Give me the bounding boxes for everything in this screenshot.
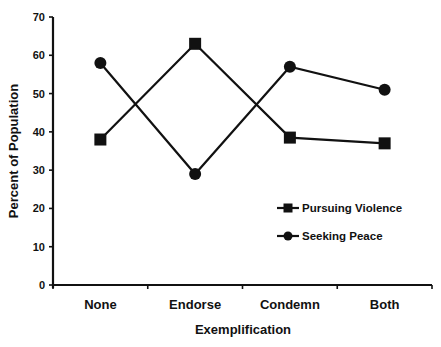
legend: Pursuing ViolenceSeeking Peace [277, 202, 402, 242]
y-axis-title: Percent of Population [6, 84, 21, 218]
x-category-label: None [84, 297, 117, 312]
x-axis-title: Exemplification [195, 322, 291, 337]
square-icon [284, 204, 293, 213]
series-layer [94, 38, 390, 180]
y-tick-label: 30 [33, 164, 45, 176]
y-tick-label: 10 [33, 241, 45, 253]
series-line [100, 44, 384, 144]
square-marker [94, 134, 106, 146]
legend-item: Pursuing Violence [277, 202, 402, 214]
square-marker [189, 38, 201, 50]
y-axis: 010203040506070 [33, 11, 53, 291]
y-tick-label: 40 [33, 126, 45, 138]
legend-item: Seeking Peace [277, 230, 383, 242]
y-tick-label: 50 [33, 88, 45, 100]
square-marker [284, 132, 296, 144]
y-tick-label: 70 [33, 11, 45, 23]
series-pursuing-violence [94, 38, 390, 150]
series-seeking-peace [94, 57, 390, 180]
legend-label: Seeking Peace [302, 230, 383, 242]
line-chart: 010203040506070 NoneEndorseCondemnBoth P… [0, 0, 441, 347]
y-tick-label: 0 [39, 279, 45, 291]
circle-icon [284, 232, 293, 241]
legend-label: Pursuing Violence [302, 202, 402, 214]
circle-marker [189, 168, 201, 180]
x-category-label: Both [370, 297, 400, 312]
circle-marker [284, 61, 296, 73]
series-line [100, 63, 384, 174]
y-tick-label: 20 [33, 202, 45, 214]
square-marker [379, 137, 391, 149]
y-tick-label: 60 [33, 49, 45, 61]
x-category-label: Condemn [260, 297, 320, 312]
circle-marker [379, 84, 391, 96]
x-axis: NoneEndorseCondemnBoth [53, 285, 432, 312]
circle-marker [94, 57, 106, 69]
x-category-label: Endorse [169, 297, 221, 312]
